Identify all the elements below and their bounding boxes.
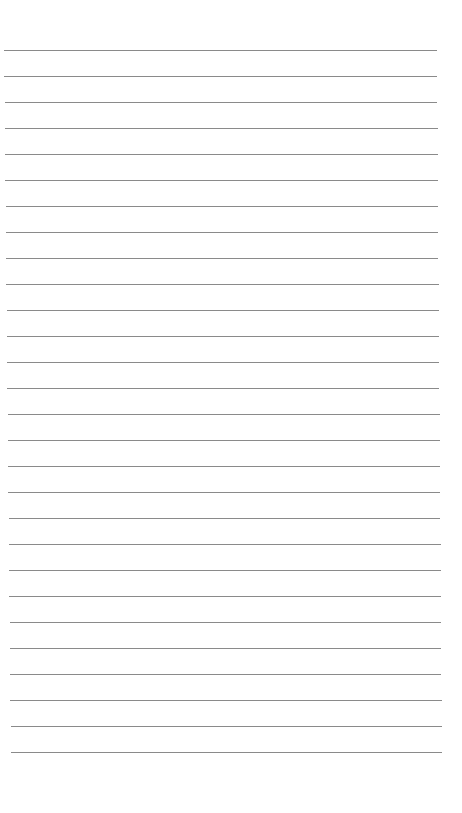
ruled-line bbox=[8, 440, 440, 441]
ruled-line bbox=[11, 752, 442, 753]
ruled-line bbox=[8, 492, 440, 493]
ruled-line bbox=[7, 362, 439, 363]
ruled-line bbox=[10, 674, 441, 675]
ruled-line bbox=[10, 622, 441, 623]
ruled-line bbox=[6, 206, 439, 207]
ruled-line bbox=[10, 648, 441, 649]
ruled-line bbox=[9, 544, 441, 545]
ruled-line bbox=[8, 414, 440, 415]
ruled-line bbox=[9, 518, 441, 519]
ruled-line bbox=[9, 570, 441, 571]
ruled-line bbox=[5, 128, 438, 129]
ruled-line bbox=[4, 76, 437, 77]
ruled-line bbox=[9, 596, 440, 597]
ruled-line bbox=[6, 258, 438, 259]
ruled-line bbox=[10, 700, 441, 701]
ruled-line bbox=[7, 310, 439, 311]
ruled-line bbox=[7, 336, 439, 337]
ruled-line bbox=[5, 154, 438, 155]
ruled-line bbox=[5, 180, 438, 181]
ruled-line bbox=[11, 726, 442, 727]
ruled-line bbox=[5, 102, 438, 103]
ruled-line bbox=[7, 388, 439, 389]
ruled-line bbox=[6, 284, 438, 285]
ruled-line bbox=[8, 466, 440, 467]
ruled-line bbox=[6, 232, 438, 233]
ruled-line bbox=[4, 50, 437, 51]
lined-paper-page bbox=[0, 0, 462, 813]
